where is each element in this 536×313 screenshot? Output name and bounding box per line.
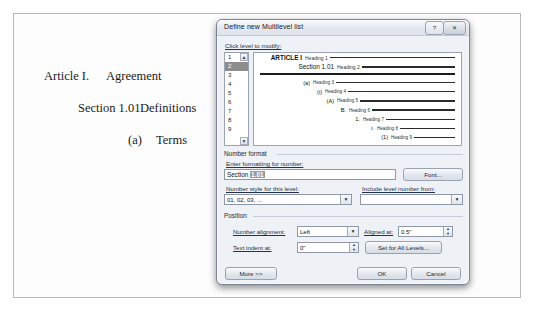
define-new-multilevel-list-dialog: Define new Multilevel list ? ✕ Click lev… [216, 19, 470, 285]
level-item-4[interactable]: 4 [225, 80, 248, 89]
preview-row-rule [330, 57, 455, 58]
level-item-3[interactable]: 3 [225, 71, 248, 80]
document-line: Section 1.01Definitions [26, 101, 222, 116]
preview-row-text: Heading 6 [349, 108, 372, 113]
position-divider [253, 216, 463, 217]
scroll-up-icon[interactable]: ▲ [240, 53, 248, 61]
preview-row-text: Heading 1 [305, 55, 330, 61]
document-line-number: Article I. [44, 69, 106, 84]
document-line-text: Terms [156, 133, 187, 148]
preview-row[interactable]: ARTICLE IHeading 1 [254, 53, 461, 62]
preview-heavy-rule [260, 73, 455, 75]
level-item-6[interactable]: 6 [225, 98, 248, 107]
document-text-block: Article I.AgreementSection 1.01Definitio… [26, 69, 222, 165]
more-button[interactable]: More >> [225, 267, 277, 280]
aligned-at-label: Aligned at: [364, 228, 393, 235]
preview-row-number: ARTICLE I [258, 54, 305, 61]
preview-row-number: (a) [284, 80, 313, 86]
preview-row-number: B. [324, 107, 349, 113]
number-format-selected-text: 1.01 [250, 171, 264, 178]
document-line-text: Agreement [106, 69, 162, 84]
preview-row[interactable]: 1.Heading 7 [254, 115, 461, 124]
preview-row-rule [348, 91, 455, 92]
preview-row-text: Heading 3 [313, 80, 336, 85]
number-format-divider [277, 154, 463, 155]
preview-row-rule [400, 128, 455, 129]
preview-row-text: Heading 9 [391, 135, 414, 140]
preview-row-rule [362, 66, 455, 68]
chevron-down-icon[interactable]: ▼ [340, 195, 351, 204]
preview-row[interactable]: (1)Heading 9 [254, 133, 461, 142]
preview-row-number: (A) [310, 98, 337, 104]
level-item-9[interactable]: 9 [225, 125, 248, 134]
number-style-label: Number style for this level: [226, 185, 299, 192]
preview-row-text: Heading 7 [363, 117, 386, 122]
include-level-select[interactable]: ▼ [360, 194, 463, 205]
preview-row-number: (1) [366, 134, 391, 140]
preview-row[interactable]: B.Heading 6 [254, 105, 461, 114]
document-line: (a)Terms [26, 133, 222, 148]
text-indent-value: 0" [300, 245, 305, 251]
preview-row-number: i. [354, 125, 377, 131]
cancel-button[interactable]: Cancel [411, 267, 461, 280]
aligned-at-stepper[interactable]: 0.5" ▲▼ [398, 226, 453, 237]
preview-row[interactable]: (A)Heading 5 [254, 96, 461, 105]
chevron-down-icon[interactable]: ▼ [347, 227, 358, 236]
number-format-prefix: Section [227, 171, 250, 178]
text-indent-label: Text indent at: [233, 244, 272, 251]
dialog-body: Click level to modify: 123456789 ▲ ▼ ART… [217, 36, 469, 285]
preview-row-text: Heading 8 [377, 126, 400, 131]
level-item-8[interactable]: 8 [225, 116, 248, 125]
enter-formatting-label: Enter formatting for number: [226, 160, 303, 167]
include-level-label: Include level number from: [362, 185, 435, 192]
click-level-label: Click level to modify: [225, 42, 281, 49]
preview-row-text: Heading 4 [325, 89, 348, 94]
level-list[interactable]: 123456789 ▲ ▼ [224, 52, 249, 146]
level-item-7[interactable]: 7 [225, 107, 248, 116]
help-icon[interactable]: ? [425, 21, 444, 35]
close-icon[interactable]: ✕ [443, 21, 466, 35]
preview-row-text: Heading 5 [337, 98, 360, 103]
spinner-up-down-icon[interactable]: ▲▼ [443, 227, 452, 236]
chevron-down-icon[interactable]: ▼ [451, 195, 462, 204]
document-line: Article I.Agreement [26, 69, 222, 84]
number-style-select[interactable]: 01, 02, 03, ... ▼ [224, 194, 352, 205]
preview-row[interactable]: Section 1.01Heading 2 [254, 62, 461, 71]
preview-row-rule [372, 109, 455, 110]
number-alignment-label: Number alignment: [233, 228, 285, 235]
ok-button[interactable]: OK [357, 267, 407, 280]
number-style-value: 01, 02, 03, ... [227, 197, 262, 203]
document-line-text: Definitions [140, 101, 196, 116]
preview-row-rule [336, 82, 455, 83]
preview-row-number: Section 1.01 [258, 63, 337, 70]
level-item-5[interactable]: 5 [225, 89, 248, 98]
number-alignment-value: Left [300, 229, 310, 235]
preview-row-rule [386, 119, 455, 120]
level-item-2[interactable]: 2 [225, 62, 248, 71]
level-list-items[interactable]: 123456789 [225, 53, 248, 134]
dialog-title: Define new Multilevel list [224, 23, 303, 30]
number-alignment-select[interactable]: Left ▼ [297, 226, 359, 237]
preview-row[interactable]: (a)Heading 3 [254, 78, 461, 87]
document-line-number: Section 1.01 [78, 101, 140, 116]
set-for-all-levels-button[interactable]: Set for All Levels... [365, 241, 442, 254]
position-group-label: Position [224, 212, 247, 219]
scroll-down-icon[interactable]: ▼ [240, 137, 248, 145]
preview-row-number: (i) [298, 89, 325, 95]
spinner-up-down-icon[interactable]: ▲▼ [349, 243, 358, 252]
text-indent-stepper[interactable]: 0" ▲▼ [297, 242, 359, 253]
preview-row-rule [414, 137, 455, 138]
number-format-input[interactable]: Section 1.01 [224, 169, 396, 180]
preview-row-rule [360, 100, 455, 101]
aligned-at-value: 0.5" [401, 229, 411, 235]
preview-row[interactable]: i.Heading 8 [254, 124, 461, 133]
preview-row-text: Heading 2 [337, 64, 362, 70]
number-format-group-label: Number format [224, 150, 267, 157]
preview-row[interactable]: (i)Heading 4 [254, 87, 461, 96]
dialog-titlebar[interactable]: Define new Multilevel list ? ✕ [217, 20, 469, 36]
list-preview-pane[interactable]: ARTICLE IHeading 1Section 1.01Heading 2(… [253, 52, 462, 146]
preview-row-number: 1. [338, 116, 363, 122]
font-button[interactable]: Font... [403, 168, 463, 181]
document-line-number: (a) [114, 133, 156, 148]
